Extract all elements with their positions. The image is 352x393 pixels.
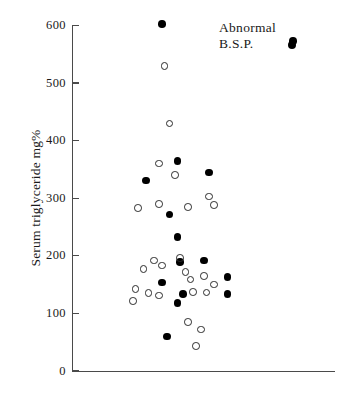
data-point-filled (289, 37, 297, 45)
data-point-open (132, 285, 140, 293)
data-point-open (210, 201, 218, 209)
data-point-filled (158, 279, 166, 287)
data-point-open (155, 200, 163, 208)
data-point-open (197, 326, 205, 334)
data-point-open (158, 262, 166, 270)
data-point-open (166, 120, 174, 128)
data-point-open (155, 160, 163, 168)
data-point-open (161, 62, 169, 70)
data-point-filled (200, 257, 208, 265)
data-point-filled (179, 290, 187, 298)
data-point-open (150, 257, 158, 265)
data-point-open (200, 272, 208, 280)
scatter-plot-figure: Serum triglyceride mg% 01002003004005006… (0, 0, 352, 393)
data-point-filled (174, 299, 182, 307)
data-point-open (182, 268, 190, 276)
data-point-open (129, 297, 137, 305)
data-point-filled (166, 211, 174, 219)
data-point-filled (158, 20, 166, 28)
data-point-filled (163, 333, 171, 341)
data-point-open (134, 204, 142, 212)
plot-data-area (0, 0, 352, 393)
data-point-filled (174, 233, 182, 241)
data-point-open (210, 281, 218, 289)
data-point-open (155, 292, 163, 300)
data-point-open (189, 288, 197, 296)
data-point-open (192, 342, 200, 350)
data-point-open (205, 193, 213, 201)
data-point-open (184, 318, 192, 326)
data-point-open (171, 171, 179, 179)
data-point-filled (205, 169, 213, 177)
data-point-filled (224, 273, 232, 281)
data-point-open (176, 254, 184, 262)
data-point-open (203, 289, 211, 297)
data-point-open (187, 276, 195, 284)
data-point-filled (142, 177, 150, 185)
data-point-open (145, 289, 153, 297)
data-point-filled (224, 290, 232, 298)
data-point-open (184, 203, 192, 211)
data-point-open (140, 265, 148, 273)
data-point-filled (174, 157, 182, 165)
